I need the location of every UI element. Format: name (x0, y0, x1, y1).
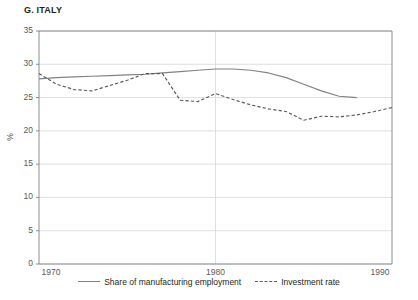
legend-item-investment-rate: Investment rate (255, 277, 340, 287)
y-tick-label: 0 (9, 258, 33, 268)
y-tick-label: 35 (9, 25, 33, 35)
axes-group (36, 31, 392, 264)
legend-item-share-of-manufacturing-employment: Share of manufacturing employment (78, 277, 241, 287)
y-tick-label: 30 (9, 58, 33, 68)
gridlines-group (39, 31, 392, 264)
chart-plot-area (0, 0, 418, 300)
x-tick-label: 1970 (31, 267, 71, 277)
legend-label-series1: Share of manufacturing employment (104, 277, 241, 287)
y-tick-label: 15 (9, 158, 33, 168)
y-tick-label: 10 (9, 191, 33, 201)
x-tick-label: 1980 (196, 267, 236, 277)
y-axis-unit-label: % (5, 133, 15, 141)
solid-line-swatch-icon (78, 281, 100, 283)
y-tick-label: 25 (9, 92, 33, 102)
x-tick-label: 1990 (360, 267, 400, 277)
series-line-1 (39, 69, 357, 98)
chart-legend: Share of manufacturing employment Invest… (0, 277, 418, 287)
dashed-line-swatch-icon (255, 281, 277, 283)
y-tick-label: 5 (9, 225, 33, 235)
chart-panel: G. ITALY 05101520253035 197019801990 % S… (0, 0, 418, 300)
legend-label-series2: Investment rate (281, 277, 340, 287)
